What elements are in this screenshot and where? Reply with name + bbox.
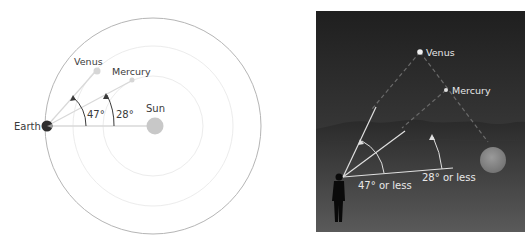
venus-icon [94, 68, 101, 75]
mercury-angle-label: 28° or less [422, 172, 476, 183]
sun-icon [147, 118, 164, 135]
venus-angle-label: 47° or less [358, 180, 412, 191]
mercury-icon [444, 88, 448, 92]
earth-label: Earth [14, 121, 41, 132]
mercury-label: Mercury [112, 66, 151, 77]
hills [316, 120, 525, 232]
mercury-angle-label: 28° [116, 109, 134, 120]
sun-label: Sun [146, 103, 165, 114]
venus-angle-arrowhead [70, 95, 76, 101]
observer-diagram: Venus Mercury 47° or less 28° or less [316, 11, 525, 232]
venus-label: Venus [74, 56, 103, 67]
mercury-icon [130, 78, 135, 83]
venus-label: Venus [426, 47, 455, 58]
sun-icon [480, 147, 506, 173]
observer-diagram-svg: Venus Mercury 47° or less 28° or less [316, 11, 525, 232]
orbital-diagram: Earth Sun Venus Mercury 47° 28° [0, 0, 300, 247]
mercury-label: Mercury [452, 85, 491, 96]
venus-icon [417, 49, 423, 55]
orbital-diagram-svg: Earth Sun Venus Mercury 47° 28° [0, 0, 300, 247]
venus-angle-label: 47° [87, 109, 105, 120]
